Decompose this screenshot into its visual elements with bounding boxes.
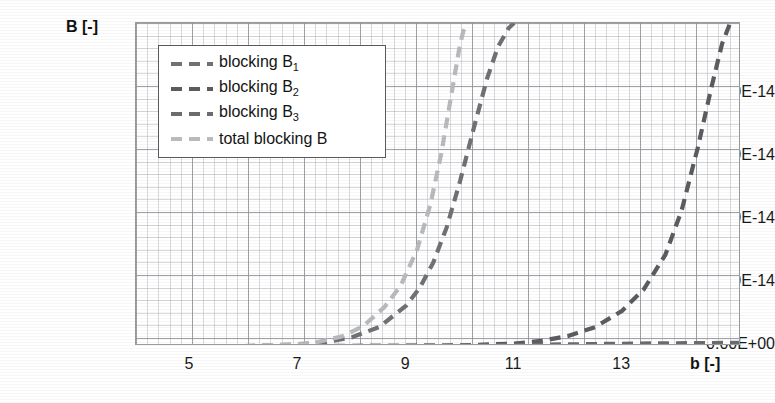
legend-item: total blocking B <box>169 127 328 151</box>
x-tick-label: 5 <box>159 355 219 373</box>
legend-item-label: blocking B3 <box>219 104 299 123</box>
legend-item: blocking B1 <box>169 52 299 76</box>
legend-line-swatch <box>169 132 215 146</box>
legend-item: blocking B2 <box>169 77 299 101</box>
legend-line-swatch <box>169 82 215 96</box>
x-tick-label: 9 <box>375 355 435 373</box>
legend-item: blocking B3 <box>169 102 299 126</box>
y-axis-title: B [-] <box>66 18 98 36</box>
blocking-coefficient-chart: B [-] b [-] 0.00E+001.00E-142.00E-143.00… <box>0 0 775 403</box>
x-tick-label: 7 <box>267 355 327 373</box>
legend-item-label: total blocking B <box>219 131 328 147</box>
legend-item-label: blocking B1 <box>219 54 299 73</box>
legend-line-swatch <box>169 107 215 121</box>
x-axis-title: b [-] <box>690 355 720 373</box>
x-tick-label: 11 <box>483 355 543 373</box>
x-tick-label: 13 <box>591 355 651 373</box>
legend: blocking B1blocking B2blocking B3total b… <box>158 45 386 158</box>
legend-line-swatch <box>169 57 215 71</box>
legend-item-label: blocking B2 <box>219 79 299 98</box>
